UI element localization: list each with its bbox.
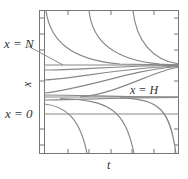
label-x-eq-N: x = N [3, 36, 35, 51]
right-ticks [174, 18, 179, 145]
top-ticks [68, 11, 154, 16]
label-x-eq-0: x = 0 [4, 106, 33, 121]
bottom-ticks [68, 149, 175, 154]
plot-frame [40, 11, 179, 154]
x-axis-label: x [20, 81, 34, 88]
curves-between-H-N [45, 66, 179, 98]
diagram-svg: x = N x = H x = 0 t x [0, 0, 188, 179]
curves-above-N [46, 11, 179, 66]
curves-below-H [45, 98, 177, 154]
left-ticks [40, 18, 45, 145]
label-x-eq-H: x = H [129, 83, 159, 97]
phase-line-diagram: x = N x = H x = 0 t x [0, 0, 188, 179]
t-axis-label: t [107, 158, 111, 172]
